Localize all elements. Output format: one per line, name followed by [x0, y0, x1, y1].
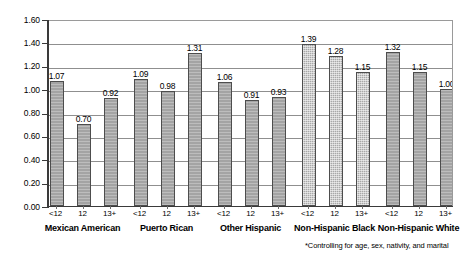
- bar-value-label: 1.00: [432, 80, 453, 89]
- chart-footnote: *Controlling for age, sex, nativity, and…: [305, 241, 448, 250]
- bar-value-label: 1.32: [378, 43, 408, 52]
- plot-inner: 1.070.700.921.090.981.311.060.910.931.39…: [49, 21, 452, 206]
- bar: [218, 82, 232, 206]
- x-axis-tick-mark: [335, 206, 336, 209]
- x-axis-tick-label: 13+: [262, 209, 294, 218]
- y-axis-tick-label: 0.00: [2, 203, 40, 212]
- y-axis-line: [47, 20, 49, 208]
- x-axis-tick-mark: [446, 206, 447, 209]
- y-axis-tick-label: 1.20: [2, 62, 40, 71]
- x-axis-tick-mark: [110, 206, 111, 209]
- bar-value-label: 1.15: [405, 63, 435, 72]
- bar-value-label: 0.91: [237, 91, 267, 100]
- bar: [440, 89, 453, 206]
- bar-value-label: 1.31: [180, 44, 210, 53]
- x-axis-tick-mark: [194, 206, 195, 209]
- x-axis-tick-mark: [56, 206, 57, 209]
- bar-value-label: 1.15: [348, 63, 378, 72]
- x-axis-tick-label: 13+: [178, 209, 210, 218]
- bar-value-label: 0.93: [264, 88, 294, 97]
- bar: [188, 53, 202, 206]
- bar: [356, 72, 370, 206]
- x-axis-tick-mark: [308, 206, 309, 209]
- x-axis-tick-mark: [224, 206, 225, 209]
- y-axis-tick-label: 1.00: [2, 86, 40, 95]
- chart-container: 0.000.200.400.600.801.001.201.401.60 1.0…: [0, 0, 475, 260]
- y-axis-tick-label: 0.20: [2, 179, 40, 188]
- bar: [161, 91, 175, 206]
- bar: [413, 72, 427, 206]
- bar: [329, 56, 343, 206]
- x-axis-tick-mark: [83, 206, 84, 209]
- y-axis-tick-label: 1.60: [2, 16, 40, 25]
- y-axis-tick-label: 1.40: [2, 39, 40, 48]
- bar-value-label: 1.39: [294, 35, 324, 44]
- y-axis-tick-label: 0.60: [2, 132, 40, 141]
- x-axis-group-label: Non-Hispanic White: [363, 223, 475, 233]
- x-axis-tick-label: 13+: [346, 209, 378, 218]
- bar-value-label: 0.70: [69, 115, 99, 124]
- x-axis-tick-mark: [140, 206, 141, 209]
- x-axis-tick-mark: [251, 206, 252, 209]
- bar: [302, 44, 316, 206]
- bar: [104, 98, 118, 206]
- bar: [245, 100, 259, 206]
- bar: [134, 79, 148, 206]
- plot-area: 1.070.700.921.090.981.311.060.910.931.39…: [48, 20, 453, 207]
- x-axis-tick-mark: [419, 206, 420, 209]
- x-axis-tick-mark: [392, 206, 393, 209]
- x-axis-tick-label: 13+: [430, 209, 462, 218]
- bar-value-label: 0.98: [153, 82, 183, 91]
- bar-value-label: 1.06: [210, 73, 240, 82]
- y-axis-labels: 0.000.200.400.600.801.001.201.401.60: [0, 0, 40, 260]
- bar: [386, 52, 400, 206]
- bar-value-label: 1.28: [321, 47, 351, 56]
- bar: [272, 97, 286, 206]
- bar-value-label: 1.09: [126, 70, 156, 79]
- x-axis-tick-mark: [362, 206, 363, 209]
- y-axis-tick-label: 0.40: [2, 156, 40, 165]
- bar: [50, 81, 64, 206]
- x-axis-tick-label: 13+: [94, 209, 126, 218]
- bar-value-label: 0.92: [96, 89, 126, 98]
- bar-value-label: 1.07: [49, 72, 72, 81]
- y-axis-tick-label: 0.80: [2, 109, 40, 118]
- x-axis-tick-mark: [278, 206, 279, 209]
- x-axis-tick-mark: [167, 206, 168, 209]
- bar: [77, 124, 91, 206]
